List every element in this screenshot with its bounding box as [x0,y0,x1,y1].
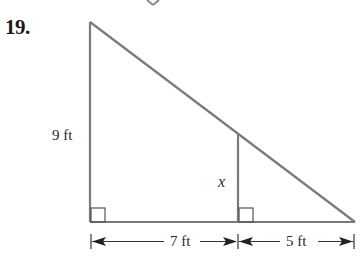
geometry-figure: 19. 9 ft x 7 ft 5 ft [0,0,363,257]
base-right-segment-label: 5 ft [284,234,308,249]
dimension-line [91,234,354,249]
large-triangle [90,22,355,222]
hypotenuse [90,22,355,222]
base-left-segment-label: 7 ft [168,234,192,249]
inner-side-label: x [218,174,225,190]
cropped-arrow-fragment [147,0,159,5]
problem-number: 19. [5,15,30,40]
right-angle-marker-inner [239,208,253,222]
right-angle-marker-left [91,208,105,222]
left-side-label: 9 ft [52,128,72,143]
